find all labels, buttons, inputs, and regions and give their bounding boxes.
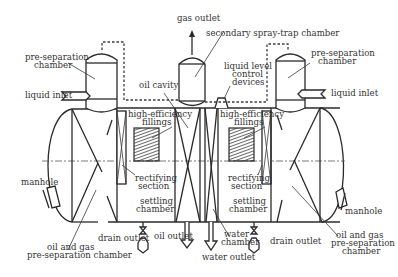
label-manhole-left: manhole bbox=[21, 177, 58, 187]
label-liquid-inlet-left: liquid inlet bbox=[25, 90, 73, 100]
right-pre-separation-chamber bbox=[276, 54, 305, 112]
label-water-chamber-2: chamber bbox=[221, 237, 260, 247]
main-vessel bbox=[42, 108, 345, 222]
water-outlet-arrow bbox=[205, 222, 217, 250]
label-liquid-inlet-right: liquid inlet bbox=[331, 88, 379, 98]
label-oil-outlet: oil outlet bbox=[154, 231, 193, 241]
right-oil-gas-pre-separation-section bbox=[271, 108, 322, 222]
left-oil-gas-pre-separation-section bbox=[72, 109, 117, 222]
label-oil-gas-pre-left-2: pre-separation chamber bbox=[27, 250, 133, 260]
right-high-efficiency-filling bbox=[229, 128, 254, 161]
label-settling-left-2: chamber bbox=[136, 204, 175, 214]
label-liquid-level-3: devices bbox=[232, 77, 265, 87]
right-liquid-inlet-pipe bbox=[298, 90, 325, 98]
label-oil-gas-pre-right-3: chamber bbox=[342, 246, 381, 256]
left-manhole bbox=[47, 186, 60, 208]
label-high-efficiency-right-2: fillings bbox=[234, 117, 263, 127]
label-rectifying-left-2: section bbox=[138, 181, 170, 191]
left-pre-separation-chamber bbox=[86, 54, 117, 112]
label-gas-outlet: gas outlet bbox=[177, 13, 221, 23]
label-settling-right-2: chamber bbox=[229, 204, 268, 214]
label-oil-cavity: oil cavity bbox=[139, 80, 178, 90]
label-drain-outlet-left: drain outlet bbox=[98, 233, 150, 243]
label-chamber-left: chamber bbox=[34, 60, 73, 70]
label-high-efficiency-left-2: fillings bbox=[142, 117, 171, 127]
left-high-efficiency-filling bbox=[134, 128, 159, 161]
gas-outlet-arrow bbox=[189, 30, 195, 55]
middle-oil-water-chambers bbox=[175, 108, 218, 222]
separator-diagram: gas outlet secondary spray-trap chamber … bbox=[0, 0, 398, 277]
label-rectifying-right-2: section bbox=[231, 181, 263, 191]
label-chamber-right: chamber bbox=[318, 56, 357, 66]
left-rectifying-section bbox=[117, 111, 126, 184]
label-drain-outlet-right: drain outlet bbox=[270, 236, 322, 246]
label-manhole-right: manhole bbox=[345, 206, 382, 216]
secondary-spray-trap-chamber bbox=[179, 58, 205, 106]
label-water-outlet: water outlet bbox=[202, 252, 256, 262]
liquid-level-control-device bbox=[215, 98, 228, 108]
label-secondary-spray-trap-chamber: secondary spray-trap chamber bbox=[206, 28, 340, 38]
